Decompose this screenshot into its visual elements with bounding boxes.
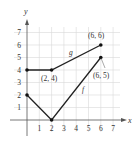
svg-text:2: 2	[17, 91, 21, 100]
x-tick-labels: 1 2 3 4 5 6 7	[37, 124, 115, 133]
svg-text:7: 7	[111, 124, 115, 133]
svg-text:(6, 5): (6, 5)	[93, 71, 110, 80]
leader-line	[101, 58, 105, 68]
svg-text:5: 5	[17, 53, 21, 62]
svg-text:3: 3	[17, 78, 21, 87]
svg-text:g: g	[69, 48, 73, 57]
x-axis-arrow-icon	[121, 118, 127, 122]
y-axis-arrow-icon	[25, 19, 29, 25]
svg-text:4: 4	[74, 124, 78, 133]
svg-text:5: 5	[87, 124, 91, 133]
svg-text:3: 3	[62, 124, 66, 133]
svg-text:6: 6	[17, 41, 21, 50]
y-axis-label: y	[23, 7, 28, 16]
svg-text:1: 1	[17, 103, 21, 112]
chart: x y 1 2 3 4 5 6 7 1 2 3 4 5 6 7 (6, 6) (…	[0, 0, 137, 141]
svg-text:f: f	[82, 85, 85, 94]
y-tick-labels: 1 2 3 4 5 6 7	[17, 28, 21, 112]
svg-text:2: 2	[50, 124, 54, 133]
svg-text:(6, 6): (6, 6)	[88, 31, 105, 40]
svg-text:4: 4	[17, 66, 21, 75]
svg-text:(2, 4): (2, 4)	[41, 74, 58, 83]
x-axis-label: x	[127, 116, 132, 125]
svg-text:7: 7	[17, 28, 21, 37]
svg-text:6: 6	[99, 124, 103, 133]
svg-text:1: 1	[37, 124, 41, 133]
